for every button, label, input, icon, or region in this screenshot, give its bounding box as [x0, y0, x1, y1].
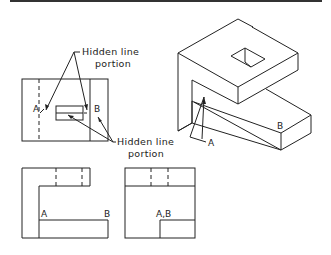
label-a-front: A: [41, 209, 48, 219]
leader-bottom: [68, 115, 116, 142]
hidden-line-label-bottom-1: Hidden line: [117, 136, 174, 147]
leader-top: [45, 52, 88, 110]
label-a-top: A: [33, 104, 40, 114]
front-view: A B: [22, 168, 110, 238]
label-ab-side: A,B: [156, 209, 171, 219]
label-b-front: B: [104, 209, 110, 219]
label-b-top: B: [94, 104, 100, 114]
isometric-view: A B: [178, 19, 311, 150]
drawing-canvas: A B Hidden line portion Hidden line port…: [0, 0, 331, 255]
top-rule: [10, 0, 322, 2]
side-view: A,B: [125, 168, 195, 238]
label-a-iso: A: [208, 138, 215, 148]
hidden-line-label-top-2: portion: [95, 58, 131, 69]
hidden-line-label-top-1: Hidden line: [82, 46, 139, 57]
label-b-iso: B: [277, 121, 283, 131]
hidden-line-label-bottom-2: portion: [128, 148, 164, 159]
